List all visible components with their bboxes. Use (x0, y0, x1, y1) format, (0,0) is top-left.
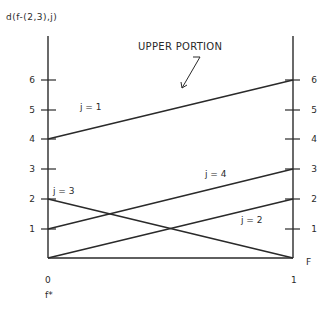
svg-text:6: 6 (311, 75, 317, 85)
svg-text:3: 3 (29, 164, 35, 174)
svg-text:3: 3 (311, 164, 317, 174)
x-tick-1: 1 (291, 275, 297, 285)
series-j2-label: j = 2 (240, 215, 263, 225)
chart: d(f-(2,3),j) 6 5 4 (0, 0, 331, 311)
svg-text:5: 5 (311, 105, 317, 115)
x-axis-title: F (306, 257, 311, 267)
svg-text:6: 6 (29, 75, 35, 85)
right-tick-labels: 6 5 4 3 2 1 (311, 75, 317, 234)
series-j3-label: j = 3 (52, 186, 75, 196)
annotation-arrow-icon (181, 57, 200, 88)
svg-text:1: 1 (29, 224, 35, 234)
svg-text:4: 4 (29, 134, 35, 144)
x-tick-0: 0 (45, 275, 51, 285)
svg-text:2: 2 (29, 194, 35, 204)
svg-text:4: 4 (311, 134, 317, 144)
series-j4-label: j = 4 (204, 169, 227, 179)
series-j1-label: j = 1 (79, 102, 102, 112)
svg-text:2: 2 (311, 194, 317, 204)
svg-text:5: 5 (29, 105, 35, 115)
x-origin-label: f* (45, 290, 53, 300)
svg-text:1: 1 (311, 224, 317, 234)
y-axis-title: d(f-(2,3),j) (6, 12, 57, 22)
left-tick-labels: 6 5 4 3 2 1 (29, 75, 35, 234)
upper-portion-annotation: UPPER PORTION (138, 41, 222, 52)
